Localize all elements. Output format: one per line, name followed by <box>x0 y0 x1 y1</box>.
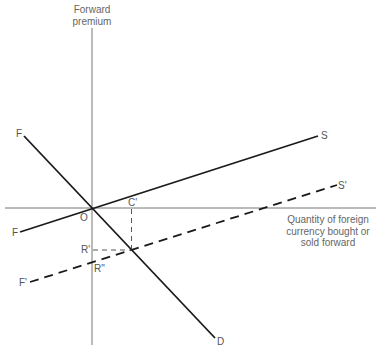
label-f-demand: F <box>16 128 22 140</box>
label-s-prime: S' <box>338 180 347 192</box>
x-axis-title-line1: Quantity of foreign <box>280 214 376 226</box>
forward-demand-line <box>24 136 215 338</box>
label-r-double-prime: R" <box>94 263 105 275</box>
y-axis-title-line1: Forward <box>62 4 122 16</box>
diagram-canvas <box>0 0 379 355</box>
y-axis-title: Forward premium <box>62 4 122 27</box>
label-s: S <box>321 130 328 142</box>
x-axis-title: Quantity of foreign currency bought or s… <box>280 214 376 249</box>
label-r-prime: R' <box>81 244 90 256</box>
label-c-prime: C' <box>128 197 137 209</box>
x-axis-title-line3: sold forward <box>280 237 376 249</box>
y-axis-title-line2: premium <box>62 16 122 28</box>
label-f-supply: F <box>12 227 18 239</box>
label-d: D <box>217 336 224 348</box>
label-f-prime: F' <box>19 277 27 289</box>
forward-supply-line <box>20 136 318 232</box>
x-axis-title-line2: currency bought or <box>280 226 376 238</box>
label-origin: O <box>80 212 88 224</box>
